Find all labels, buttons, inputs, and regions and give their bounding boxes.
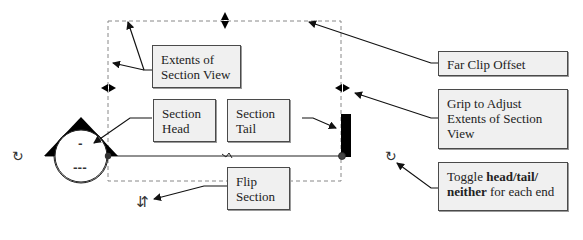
callout-text: Flip Section: [236, 174, 275, 204]
flip-section-icon[interactable]: ⇵: [136, 195, 149, 210]
callout-section-head: Section Head: [153, 99, 216, 142]
head-grip-dot[interactable]: [105, 153, 111, 159]
callout-section-tail: Section Tail: [227, 99, 290, 142]
right-extents-grip-icon[interactable]: [335, 84, 350, 92]
cycle-tail-icon[interactable]: ↻: [385, 149, 397, 163]
callout-text-bold-head-tail: head/tail/: [486, 169, 538, 184]
tail-grip-dot[interactable]: [339, 153, 346, 160]
callout-text-suffix: for each end: [487, 184, 555, 199]
callout-text-bold-neither: neither: [447, 184, 487, 199]
callout-grip-adjust-extents: Grip to Adjust Extents of Section View: [438, 89, 568, 149]
callout-far-clip-offset: Far Clip Offset: [438, 51, 568, 76]
callout-flip-section: Flip Section: [227, 167, 290, 210]
section-tail-bar: [341, 114, 351, 157]
callout-toggle-head-tail: Toggle head/tail/neither for each end: [438, 162, 568, 211]
callout-text: Far Clip Offset: [447, 57, 525, 72]
callout-text-prefix: Toggle: [447, 169, 486, 184]
cycle-head-icon[interactable]: ↻: [12, 149, 24, 163]
callout-extents-of-section-view: Extents of Section View: [152, 45, 241, 88]
head-top-label: -: [78, 138, 83, 149]
callout-text: Extents of Section View: [161, 52, 230, 82]
callout-text: Section Tail: [236, 106, 275, 136]
callout-text: Grip to Adjust Extents of Section View: [447, 96, 542, 141]
callout-text: Section Head: [162, 106, 201, 136]
head-bottom-label: ---: [73, 162, 87, 173]
break-mark-icon: [222, 153, 232, 158]
